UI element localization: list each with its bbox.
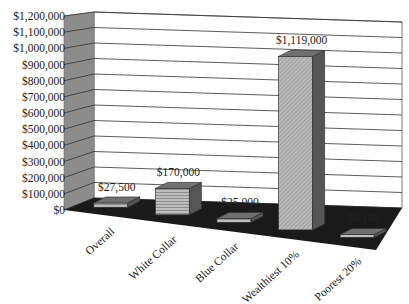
y-tick-label: $600,000 (22, 107, 65, 119)
y-tick-label: $100,000 (22, 188, 65, 200)
bar-white-collar (155, 182, 201, 214)
data-label: $25,000 (221, 196, 258, 208)
y-tick-label: $0 (54, 204, 66, 216)
y-tick-label: $1,200,000 (13, 10, 65, 22)
y-tick-label: $800,000 (22, 75, 65, 87)
data-label: $170,000 (157, 166, 200, 178)
bar-wealthiest-10- (279, 50, 325, 229)
data-label: $8,100 (347, 212, 379, 224)
data-label: $1,119,000 (276, 34, 327, 46)
y-tick-label: $1,000,000 (13, 42, 65, 54)
data-label: $27,500 (98, 181, 135, 193)
y-tick-label: $900,000 (22, 59, 65, 71)
y-tick-label: $700,000 (22, 91, 65, 103)
y-tick-label: $200,000 (22, 172, 65, 184)
y-tick-label: $300,000 (22, 156, 65, 168)
y-tick-label: $400,000 (22, 139, 65, 151)
y-tick-label: $500,000 (22, 123, 65, 135)
y-tick-label: $1,100,000 (13, 26, 65, 38)
bar-chart: $0$100,000$200,000$300,000$400,000$500,0… (0, 0, 409, 304)
